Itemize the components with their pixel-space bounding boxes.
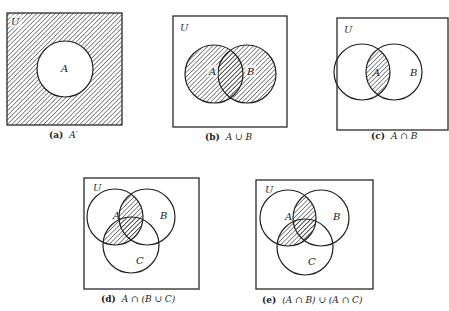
caption-c: (c) A ∩ B	[371, 131, 418, 141]
caption-e: (e) (A ∩ B) ∪ (A ∩ C)	[262, 295, 363, 305]
universe-label: U	[93, 182, 102, 193]
universe-label: U	[344, 24, 353, 35]
set-label-c: C	[308, 256, 316, 267]
diagram-a-complement: U A (a) A′	[7, 13, 122, 140]
caption-a: (a) A′	[49, 130, 78, 140]
set-label-b: B	[246, 66, 254, 77]
universe-label: U	[265, 184, 274, 195]
diagram-c-intersection: U A B (c) A ∩ B	[334, 18, 448, 141]
universe-box	[256, 180, 373, 289]
venn-diagram-figure: U A (a) A′ U A B (b) A ∪ B U A B (c)	[0, 0, 449, 311]
caption-b: (b) A ∪ B	[205, 132, 252, 142]
set-label-a: A	[208, 66, 216, 77]
diagram-b-union: U A B (b) A ∪ B	[173, 16, 287, 142]
set-label-a: A	[284, 211, 292, 222]
set-label-c: C	[136, 255, 144, 266]
universe-label: U	[11, 16, 20, 27]
diagram-d-a-and-b-or-c: U A B C (d) A ∩ (B ∪ C)	[84, 178, 199, 304]
universe-box	[337, 18, 448, 130]
universe-box	[84, 178, 199, 289]
diagram-e-distributive: U A B C (e) (A ∩ B) ∪ (A ∩ C)	[256, 180, 373, 305]
caption-d: (d) A ∩ (B ∪ C)	[101, 294, 176, 304]
set-label-a: A	[112, 210, 120, 221]
set-label-a: A	[372, 67, 380, 78]
universe-label: U	[180, 22, 189, 33]
set-label-b: B	[332, 211, 340, 222]
set-label-a: A	[60, 63, 68, 74]
set-label-b: B	[409, 67, 417, 78]
set-label-b: B	[159, 210, 167, 221]
